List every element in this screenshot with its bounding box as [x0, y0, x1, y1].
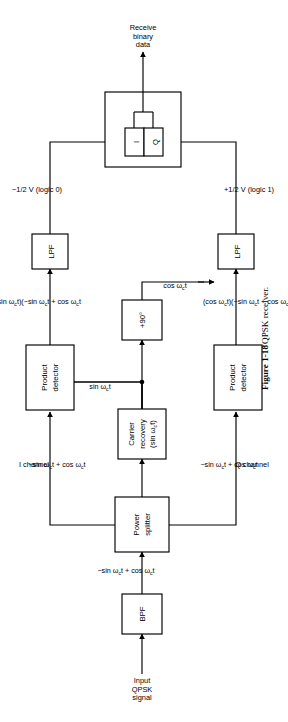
block-decision-i-label: I: [132, 141, 141, 143]
label-q-input-signal-group: −sin ωct + cos ωct: [200, 460, 257, 470]
block-product-detector-i-label-2: detector: [51, 363, 60, 391]
block-carrier-recovery-label-1: Carrier: [127, 422, 136, 446]
label-input-line3: signal: [132, 693, 152, 702]
label-qdet-out-group: (cos ωct)(−sin ωct + cos ωct): [203, 297, 288, 307]
figure-caption-group: Figure 1-18 QPSK receiver.: [260, 287, 270, 390]
figure-caption-text: QPSK receiver.: [260, 287, 270, 344]
label-lpfq-out-group: +1/2 V (logic 1): [224, 185, 274, 194]
block-product-detector-i[interactable]: [26, 345, 74, 410]
label-output-line3: data: [136, 40, 151, 49]
block-product-detector-q-label-2: detector: [239, 363, 248, 391]
block-lpf-i-label: LPF: [47, 244, 56, 258]
block-lpf-q-label: LPF: [233, 244, 242, 258]
label-idet-out-group: (sin ωct)(−sin ωct + cos ωct: [0, 297, 81, 307]
block-bpf-label: BPF: [138, 606, 147, 621]
block-carrier-recovery-label-2: recovery: [138, 419, 147, 449]
label-bpf-out-group: −sin ωct + cos ωct: [97, 566, 154, 576]
label-i-input-signal-group: −sin ωct + cos ωct: [28, 460, 85, 470]
block-product-detector-q[interactable]: [214, 345, 262, 410]
label-input-group: Input QPSK signal: [132, 676, 153, 702]
label-lpfi-out: −1/2 V (logic 0): [12, 185, 62, 194]
label-i-input-signal: −sin ωct + cos ωct: [28, 460, 85, 470]
block-decision-q-label: Q: [151, 139, 160, 145]
block-product-detector-i-label-1: Product: [40, 363, 49, 390]
block-power-splitter-label-1: Power: [132, 513, 141, 535]
block-phase-shifter-label: +90°: [138, 312, 147, 328]
block-power-splitter[interactable]: [115, 497, 169, 552]
block-product-detector-q-label-1: Product: [228, 363, 237, 390]
block-power-splitter-label-2: splitter: [143, 513, 152, 536]
diagram-canvas: BPF Power splitter Carrier recovery (sin…: [0, 0, 288, 722]
label-idet-out: (sin ωct)(−sin ωct + cos ωct: [0, 297, 81, 307]
label-lpfq-out: +1/2 V (logic 1): [224, 185, 274, 194]
block-carrier-recovery-label-3: (sin ωct): [148, 420, 158, 448]
label-lpfi-out-group: −1/2 V (logic 0): [12, 185, 62, 194]
label-qdet-out: (cos ωct)(−sin ωct + cos ωct): [203, 297, 288, 307]
qpsk-receiver-figure: BPF Power splitter Carrier recovery (sin…: [0, 0, 288, 722]
label-bpf-out: −sin ωct + cos ωct: [97, 566, 154, 576]
label-q-input-signal: −sin ωct + cos ωct: [200, 460, 257, 470]
figure-caption-number: Figure 1-18: [260, 345, 270, 390]
